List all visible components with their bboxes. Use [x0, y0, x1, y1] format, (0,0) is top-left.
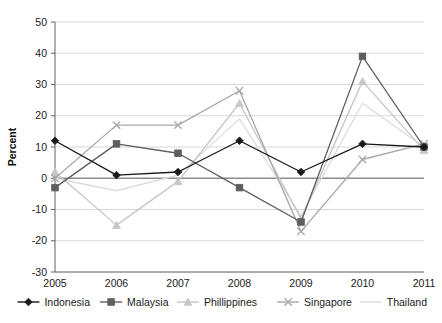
legend-label: Phillippines — [204, 296, 257, 308]
y-axis-tick-label: 40 — [35, 47, 47, 59]
data-point-marker-square — [175, 150, 182, 157]
x-axis-tick-label: 2005 — [43, 277, 67, 289]
line-chart: 50403020100-10-20-30 2005200620072008200… — [0, 0, 442, 323]
y-axis-tick-label: -10 — [32, 203, 47, 215]
y-axis-tick-label: 10 — [35, 141, 47, 153]
x-axis-tick-label: 2006 — [105, 277, 129, 289]
data-point-marker-square — [113, 141, 120, 148]
chart-background — [0, 0, 442, 323]
y-axis-tick-label: 50 — [35, 16, 47, 28]
y-axis-tick-label: -20 — [32, 234, 47, 246]
y-axis-tick-label: 0 — [41, 172, 47, 184]
legend-label: Thailand — [387, 296, 427, 308]
y-axis-tick-label: 20 — [35, 109, 47, 121]
x-axis-tick-label: 2011 — [413, 277, 436, 289]
y-axis-title-label: Percent — [6, 127, 18, 166]
legend-label: Indonesia — [44, 296, 90, 308]
legend-label: Malaysia — [127, 296, 169, 308]
data-point-marker-square — [236, 184, 243, 191]
x-axis-tick-label: 2009 — [289, 277, 313, 289]
legend-label: Singapore — [304, 296, 352, 308]
legend-swatch-marker — [108, 299, 115, 306]
x-axis-tick-label: 2008 — [228, 277, 252, 289]
y-axis-tick-label: -30 — [32, 266, 47, 278]
data-point-marker-square — [298, 219, 305, 226]
y-axis-tick-label: 30 — [35, 78, 47, 90]
data-point-marker-square — [359, 53, 366, 60]
chart-canvas: 50403020100-10-20-30 2005200620072008200… — [0, 0, 442, 323]
x-axis-tick-label: 2007 — [166, 277, 190, 289]
y-axis-title: Percent — [6, 127, 18, 166]
data-point-marker-square — [52, 184, 59, 191]
x-axis-tick-label: 2010 — [351, 277, 375, 289]
